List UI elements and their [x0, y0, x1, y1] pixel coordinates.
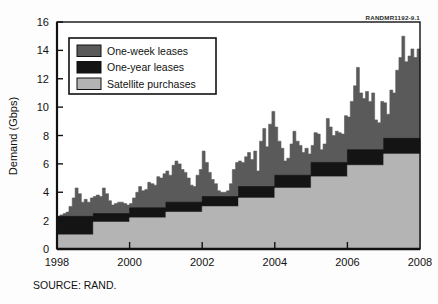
y-tick-label: 16	[37, 16, 49, 28]
legend-swatch-one_week_leases	[77, 45, 101, 57]
demand-stacked-area-chart: RANDMR1192-9.1 0246810121416 19982000200…	[0, 0, 438, 304]
y-tick-label: 2	[43, 215, 49, 227]
y-tick-label: 6	[43, 158, 49, 170]
legend-label-one_week_leases: One-week leases	[107, 45, 188, 57]
y-tick-label: 12	[37, 73, 49, 85]
figure-container: RANDMR1192-9.1 0246810121416 19982000200…	[0, 0, 438, 304]
chart-legend: One-week leasesOne-year leasesSatellite …	[69, 38, 216, 94]
legend-label-one_year_leases: One-year leases	[107, 61, 184, 73]
legend-label-satellite_purchases: Satellite purchases	[107, 78, 196, 90]
x-tick-label: 2002	[190, 256, 214, 268]
legend-swatch-one_year_leases	[77, 62, 101, 74]
y-tick-label: 10	[37, 101, 49, 113]
y-tick-label: 14	[37, 44, 49, 56]
y-tick-label: 4	[43, 186, 49, 198]
legend-swatch-satellite_purchases	[77, 78, 101, 90]
x-tick-label: 2008	[408, 256, 432, 268]
x-tick-label: 2004	[263, 256, 287, 268]
document-code-label: RANDMR1192-9.1	[366, 14, 421, 21]
x-tick-label: 1998	[45, 256, 69, 268]
x-tick-label: 2006	[335, 256, 359, 268]
source-note: SOURCE: RAND.	[33, 279, 116, 291]
y-tick-label: 8	[43, 130, 49, 142]
y-axis-title: Demand (Gbps)	[7, 97, 19, 175]
x-tick-label: 2000	[117, 256, 141, 268]
y-tick-label: 0	[43, 243, 49, 255]
